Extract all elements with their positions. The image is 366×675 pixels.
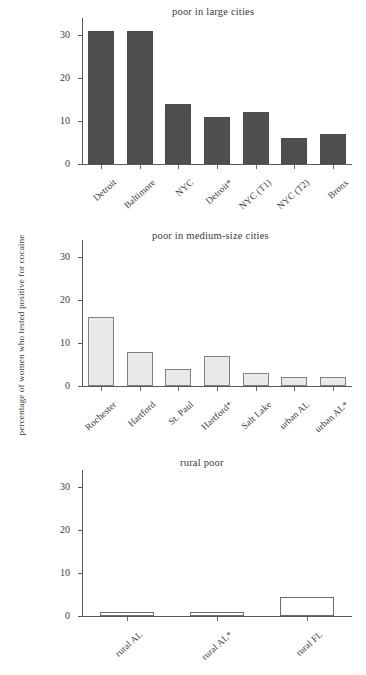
y-tick-label: 30 xyxy=(44,251,70,262)
y-tick-label: 20 xyxy=(44,524,70,535)
x-tick xyxy=(217,387,218,391)
y-tick-label: 10 xyxy=(44,337,70,348)
plot-area: 0102030rural ALrural AL*rural FL xyxy=(0,448,366,668)
panel-poor-in-large-cities: poor in large cities 0102030DetroitBalti… xyxy=(0,0,366,215)
y-tick xyxy=(78,386,82,387)
plot-area: 0102030RochesterHartfordSt. PaulHartford… xyxy=(0,222,366,437)
bar xyxy=(320,377,346,386)
x-tick xyxy=(256,387,257,391)
y-tick xyxy=(78,530,82,531)
y-tick xyxy=(78,35,82,36)
x-tick xyxy=(101,165,102,169)
panel-poor-in-medium-size-cities: poor in medium-size cities 0102030Roches… xyxy=(0,222,366,437)
x-tick xyxy=(333,387,334,391)
y-tick xyxy=(78,487,82,488)
y-tick xyxy=(78,300,82,301)
x-tick xyxy=(333,165,334,169)
x-tick-label: rural AL xyxy=(0,629,144,675)
bar xyxy=(88,317,114,386)
bar xyxy=(281,377,307,386)
y-tick-label: 0 xyxy=(44,610,70,621)
y-tick xyxy=(78,616,82,617)
bar xyxy=(281,138,307,164)
x-tick xyxy=(178,387,179,391)
x-tick xyxy=(178,165,179,169)
bar xyxy=(127,352,153,386)
y-tick-label: 10 xyxy=(44,567,70,578)
x-tick xyxy=(217,617,218,621)
x-tick xyxy=(101,387,102,391)
bar xyxy=(243,112,269,164)
bar xyxy=(127,31,153,164)
bar xyxy=(320,134,346,164)
bar xyxy=(165,104,191,164)
bar xyxy=(165,369,191,386)
x-tick xyxy=(294,165,295,169)
y-axis xyxy=(82,18,83,164)
x-tick xyxy=(294,387,295,391)
y-tick xyxy=(78,78,82,79)
bar xyxy=(190,612,244,616)
y-tick xyxy=(78,573,82,574)
y-tick-label: 20 xyxy=(44,294,70,305)
bar xyxy=(204,356,230,386)
y-tick-label: 10 xyxy=(44,115,70,126)
x-tick xyxy=(140,387,141,391)
y-axis xyxy=(82,240,83,386)
y-axis xyxy=(82,470,83,616)
bar xyxy=(204,117,230,164)
y-tick xyxy=(78,164,82,165)
y-tick-label: 0 xyxy=(44,158,70,169)
panel-rural-poor: rural poor 0102030rural ALrural AL*rural… xyxy=(0,448,366,668)
y-tick xyxy=(78,257,82,258)
x-tick xyxy=(217,165,218,169)
x-tick xyxy=(140,165,141,169)
x-tick xyxy=(307,617,308,621)
y-tick xyxy=(78,121,82,122)
figure-container: percentage of women who tested positive … xyxy=(0,0,366,675)
y-tick-label: 30 xyxy=(44,29,70,40)
y-tick xyxy=(78,343,82,344)
bar xyxy=(280,597,334,616)
x-tick xyxy=(256,165,257,169)
bar xyxy=(243,373,269,386)
x-tick xyxy=(127,617,128,621)
plot-area: 0102030DetroitBaltimoreNYCDetroit*NYC (T… xyxy=(0,0,366,215)
y-tick-label: 0 xyxy=(44,380,70,391)
y-tick-label: 30 xyxy=(44,481,70,492)
bar xyxy=(100,612,154,616)
y-tick-label: 20 xyxy=(44,72,70,83)
bar xyxy=(88,31,114,164)
